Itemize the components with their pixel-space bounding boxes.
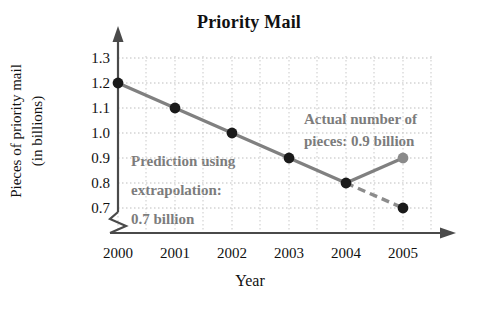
y-axis-arrow-icon	[113, 26, 124, 42]
grid-horizontal	[118, 58, 432, 208]
axis-break-icon	[110, 212, 126, 233]
y-axis	[113, 26, 124, 212]
x-axis-arrow-icon	[440, 228, 456, 239]
data-point-2005-actual	[398, 153, 409, 164]
series-actual-line	[346, 158, 403, 183]
data-point-2001	[170, 103, 181, 114]
data-point-2003	[284, 153, 295, 164]
data-point-2004	[341, 178, 352, 189]
data-point-2002	[227, 128, 238, 139]
grid-vertical	[118, 56, 431, 232]
chart-plot-area	[0, 0, 498, 309]
chart-figure: Priority Mail Pieces of priority mail (i…	[0, 0, 498, 309]
data-point-2000	[113, 78, 124, 89]
x-axis	[110, 228, 456, 239]
data-point-2005-prediction	[398, 203, 409, 214]
